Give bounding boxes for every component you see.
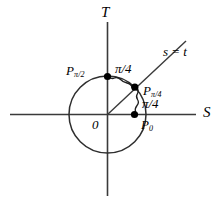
arc-label-lower: π/4: [142, 97, 159, 110]
axis-label-s: S: [203, 105, 211, 120]
line-label-s-equals-t: s = t: [163, 45, 187, 58]
point-dot-p-pi-over-4: [131, 84, 138, 91]
point-label-subscript: π/2: [74, 70, 85, 79]
point-label-p-zero: P0: [141, 118, 153, 133]
point-label-subscript: 0: [149, 124, 153, 133]
point-label-p-pi-over-2: Pπ/2: [66, 64, 85, 79]
point-label-base: P: [66, 63, 74, 78]
point-dot-p-pi-over-2: [104, 73, 111, 80]
origin-label: 0: [92, 118, 99, 131]
point-dot-p-zero: [131, 111, 138, 118]
axis-label-t: T: [101, 5, 109, 20]
arc-label-upper: π/4: [115, 62, 132, 75]
point-label-base: P: [141, 117, 149, 132]
figure-canvas: [0, 0, 223, 203]
unit-circle-figure: S T 0 s = t Pπ/2 Pπ/4 P0 π/4 π/4: [0, 0, 223, 203]
